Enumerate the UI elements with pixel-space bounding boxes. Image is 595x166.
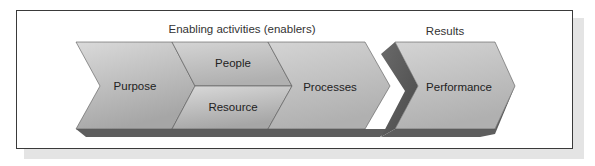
resource-label: Resource [208, 101, 257, 113]
results-header: Results [426, 25, 464, 37]
enablers-bottom-strip [76, 129, 390, 137]
purpose-label: Purpose [114, 80, 157, 92]
people-label: People [215, 57, 251, 69]
processes-label: Processes [303, 81, 357, 93]
performance-label: Performance [426, 81, 492, 93]
enablers-header: Enabling activities (enablers) [168, 23, 315, 35]
